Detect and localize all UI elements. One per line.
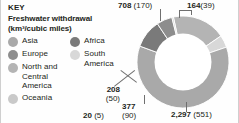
donut-hole <box>155 34 212 91</box>
value-north-america: 708 <box>118 1 131 10</box>
legend-label-oceania: Oceania <box>22 93 52 103</box>
donut-chart <box>133 12 233 112</box>
value-south-america-miles: (39) <box>200 1 214 10</box>
value-asia: 2,297 <box>171 110 191 119</box>
value-oceania-miles: (5) <box>94 111 104 120</box>
leader-line-south-america-drop <box>179 10 180 18</box>
value-label-europe: 208 <box>87 85 120 94</box>
key-subtitle-line1: Freshwater withdrawal <box>8 14 130 25</box>
legend-label-asia: Asia <box>22 36 38 46</box>
key-subtitle-line2: (km³/cubic miles) <box>8 24 130 35</box>
swatch-europe-icon <box>8 50 18 60</box>
value-label-africa-miles: (90) <box>122 111 136 120</box>
legend-label-africa: Africa <box>84 36 105 46</box>
value-north-america-miles: (170) <box>134 1 153 10</box>
legend-item-europe[interactable]: Europe <box>8 49 70 60</box>
value-oceania: 20 <box>83 111 92 120</box>
legend-item-south-america[interactable]: South America <box>70 49 134 68</box>
value-africa-miles: (90) <box>122 111 136 120</box>
value-label-north-america: 708 (170) <box>118 1 152 10</box>
leader-line-north-america <box>160 9 161 21</box>
value-south-america: 164 <box>187 1 200 10</box>
value-asia-miles: (551) <box>193 110 212 119</box>
swatch-asia-icon <box>8 37 18 47</box>
value-europe: 208 <box>107 85 120 94</box>
legend-label-south-america: South America <box>84 49 134 68</box>
legend-item-africa[interactable]: Africa <box>70 36 134 47</box>
value-africa: 377 <box>122 102 135 111</box>
legend-item-asia[interactable]: Asia <box>8 36 70 47</box>
legend-item-north-and-central-america[interactable]: North and Central America <box>8 62 70 91</box>
key-heading: KEY <box>8 3 130 14</box>
swatch-africa-icon <box>70 37 80 47</box>
value-label-asia: 2,297 (551) <box>171 110 212 119</box>
swatch-south-america-icon <box>70 50 80 60</box>
legend-item-oceania[interactable]: Oceania <box>8 93 70 104</box>
value-label-south-america: 164(39) <box>187 1 215 10</box>
freshwater-withdrawal-figure: KEY Freshwater withdrawal (km³/cubic mil… <box>0 0 239 123</box>
value-label-africa: 377 <box>122 102 135 111</box>
leader-line-africa <box>144 95 145 104</box>
swatch-oceania-icon <box>8 94 18 104</box>
swatch-north-and-central-america-icon <box>8 63 18 73</box>
legend-label-north-and-central-america: North and Central America <box>22 62 70 91</box>
value-label-europe-miles: (50) <box>87 94 120 103</box>
donut-chart-svg <box>133 12 233 112</box>
legend-column-left: Asia Europe North and Central America Oc… <box>8 36 70 106</box>
key-block: KEY Freshwater withdrawal (km³/cubic mil… <box>8 3 130 35</box>
value-europe-miles: (50) <box>106 94 120 103</box>
value-label-oceania: 20 (5) <box>83 111 104 120</box>
legend-label-europe: Europe <box>22 49 48 59</box>
leader-line-south-america-horizontal <box>179 10 192 11</box>
